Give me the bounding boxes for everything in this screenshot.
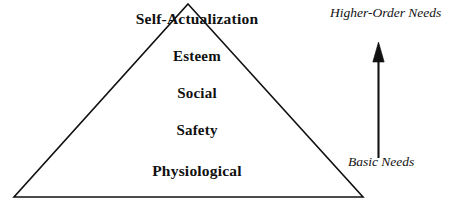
tier-label-esteem: Esteem — [0, 49, 394, 64]
pyramid-graphic — [0, 0, 453, 214]
tier-label-physiological-text: Physiological — [152, 163, 242, 179]
tier-label-esteem-text: Esteem — [173, 49, 221, 64]
tier-label-social: Social — [0, 86, 394, 101]
tier-label-safety-text: Safety — [176, 123, 217, 138]
tier-label-physiological: Physiological — [0, 163, 394, 179]
tier-label-social-text: Social — [177, 86, 217, 101]
tier-label-safety: Safety — [0, 123, 394, 138]
maslow-pyramid-diagram: Self-Actualization Esteem Social Safety … — [0, 0, 453, 214]
basic-needs-label: Basic Needs — [348, 155, 414, 169]
tier-label-self-actualization-text: Self-Actualization — [136, 11, 258, 27]
higher-order-needs-label: Higher-Order Needs — [330, 6, 441, 20]
